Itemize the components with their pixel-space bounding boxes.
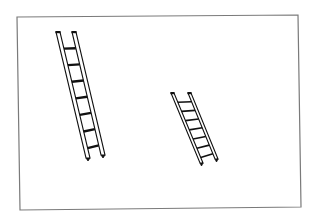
ladders-group [56, 31, 219, 166]
rung [201, 154, 213, 158]
rung [182, 110, 195, 111]
left-rail [56, 32, 90, 158]
rung [72, 81, 84, 82]
small-ladder [171, 92, 219, 166]
right-rail [188, 93, 218, 159]
rail-cap [171, 92, 175, 94]
right-rail [72, 32, 105, 155]
rung [185, 119, 198, 121]
rung [193, 136, 206, 139]
rail-cap [56, 31, 61, 33]
rail-cap [188, 92, 192, 94]
rung [88, 145, 99, 148]
rung [80, 113, 91, 115]
rung [68, 64, 80, 65]
rail-foot [86, 158, 90, 161]
rail-foot [200, 163, 203, 166]
rung [84, 129, 95, 131]
ladders-illustration [0, 0, 320, 215]
rail-foot [101, 155, 105, 158]
rung [189, 128, 202, 130]
rung [76, 97, 87, 99]
rung [178, 102, 192, 103]
rung [197, 145, 209, 148]
large-ladder [56, 31, 106, 161]
rail-cap [72, 31, 77, 33]
rail-foot [215, 159, 218, 162]
